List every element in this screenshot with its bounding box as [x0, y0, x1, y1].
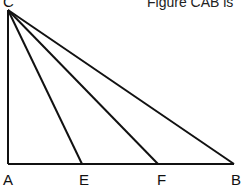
- segment-cf: [8, 10, 158, 164]
- point-label-b: B: [231, 172, 241, 187]
- point-label-f: F: [157, 172, 166, 187]
- point-label-c: C: [3, 0, 14, 9]
- triangle-diagram: [0, 0, 244, 189]
- point-label-e: E: [79, 172, 89, 187]
- point-label-a: A: [3, 172, 13, 187]
- segment-ce: [8, 10, 82, 164]
- segment-cb: [8, 10, 234, 164]
